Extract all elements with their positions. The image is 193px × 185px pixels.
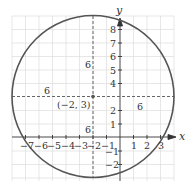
svg-text:1: 1	[110, 119, 116, 130]
center-label: (−2, 3)	[57, 99, 91, 110]
svg-text:4: 4	[110, 78, 116, 89]
svg-text:2: 2	[144, 140, 150, 151]
x-axis-label: x	[179, 130, 186, 143]
y-axis-label: y	[115, 4, 123, 17]
radius-label-right: 6	[137, 101, 143, 112]
svg-text:2: 2	[110, 105, 116, 116]
svg-text:−2: −2	[87, 140, 101, 151]
x-tick-labels: −7 −6 −5 −4 −3 −2 −1 1 2 3	[20, 140, 164, 151]
svg-text:3: 3	[158, 140, 164, 151]
x-axis-arrow-icon	[168, 135, 176, 140]
svg-text:−1: −1	[105, 146, 119, 157]
y-tick-labels: 8 7 6 5 4 2 1 −1 −2	[105, 24, 119, 170]
svg-text:1: 1	[131, 140, 137, 151]
svg-text:7: 7	[110, 38, 116, 49]
svg-text:−3: −3	[74, 140, 88, 151]
svg-text:−7: −7	[20, 140, 34, 151]
center-point	[91, 95, 95, 99]
svg-text:8: 8	[110, 24, 116, 35]
svg-text:−6: −6	[34, 140, 48, 151]
axes	[12, 18, 176, 181]
radius-label-left: 6	[44, 85, 50, 96]
radius-label-up: 6	[85, 59, 91, 70]
svg-text:−4: −4	[61, 140, 75, 151]
svg-text:−2: −2	[105, 159, 119, 170]
svg-text:6: 6	[110, 51, 116, 62]
svg-text:5: 5	[110, 65, 116, 76]
radius-label-down: 6	[85, 124, 91, 135]
circle-diagram: x y −7 −6 −5 −4 −3 −2 −1 1 2 3 8 7 6 5 4…	[0, 0, 193, 185]
svg-text:−5: −5	[47, 140, 61, 151]
